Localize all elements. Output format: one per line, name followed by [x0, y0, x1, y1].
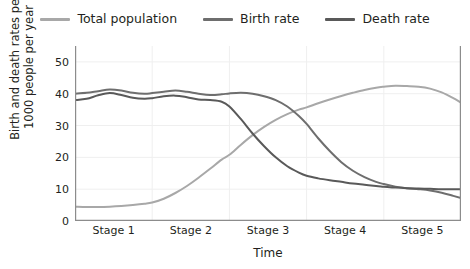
x-tick-label-stage-1: Stage 1	[92, 224, 134, 237]
vertical-gridlines	[152, 46, 384, 221]
y-tick-label: 40	[47, 87, 69, 100]
legend-item-birth-rate: Birth rate	[203, 13, 299, 26]
x-tick-label-stage-2: Stage 2	[170, 224, 212, 237]
y-tick-label: 30	[47, 119, 69, 132]
legend-swatch-total-population	[40, 18, 70, 21]
chart-legend: Total population Birth rate Death rate	[0, 8, 470, 30]
y-tick-label: 0	[47, 215, 69, 228]
legend-label-birth-rate: Birth rate	[240, 13, 299, 26]
x-axis-title: Time	[75, 246, 461, 260]
demographic-transition-chart: Total population Birth rate Death rate B…	[0, 0, 470, 269]
y-tick-label: 20	[47, 151, 69, 164]
y-tick-label: 50	[47, 55, 69, 68]
y-tick-label: 10	[47, 183, 69, 196]
horizontal-gridlines	[75, 62, 461, 189]
x-tick-label-stage-5: Stage 5	[401, 224, 443, 237]
plot-area	[75, 46, 461, 221]
x-tick-label-stage-3: Stage 3	[247, 224, 289, 237]
legend-swatch-birth-rate	[203, 18, 233, 21]
legend-label-death-rate: Death rate	[362, 13, 429, 26]
plot-svg	[75, 46, 461, 221]
legend-item-death-rate: Death rate	[325, 13, 429, 26]
x-tick-label-stage-4: Stage 4	[324, 224, 366, 237]
axis-lines	[75, 46, 461, 221]
legend-item-total-population: Total population	[40, 13, 177, 26]
legend-label-total-population: Total population	[77, 13, 177, 26]
legend-swatch-death-rate	[325, 18, 355, 21]
x-axis-tick-labels: Stage 1Stage 2Stage 3Stage 4Stage 5	[75, 224, 461, 242]
y-axis-tick-labels: 01020304050	[45, 46, 69, 221]
